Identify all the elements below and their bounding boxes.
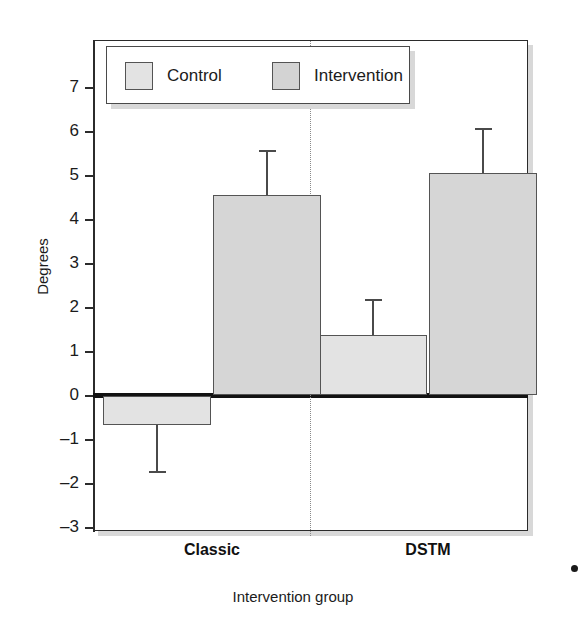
x-axis-title: Intervention group: [0, 588, 586, 605]
bar-dstm-intervention: [429, 173, 537, 395]
legend-item-control: Control: [125, 61, 222, 91]
error-bar-cap: [259, 150, 276, 152]
y-tick-mark: [85, 439, 94, 441]
y-tick-mark: [85, 219, 94, 221]
bar-dstm-control: [319, 335, 427, 396]
y-tick-mark: [85, 263, 94, 265]
y-tick-mark: [85, 527, 94, 529]
y-tick-mark: [85, 307, 94, 309]
error-bar-stem: [266, 151, 268, 195]
legend-box: Control Intervention: [106, 46, 410, 104]
page-bottom-edge: [0, 612, 586, 619]
y-axis-line: [93, 40, 95, 532]
y-tick-mark: [85, 483, 94, 485]
legend-item-intervention: Intervention: [272, 61, 403, 91]
y-tick-label: –3: [45, 518, 79, 535]
y-tick-label: 3: [45, 254, 79, 271]
x-tick-label-classic: Classic: [132, 541, 292, 559]
bar-classic-control: [103, 396, 211, 426]
y-tick-mark: [85, 87, 94, 89]
y-tick-mark: [85, 131, 94, 133]
y-tick-label: 7: [45, 78, 79, 95]
error-bar-cap: [149, 471, 166, 473]
error-bar-cap: [365, 299, 382, 301]
y-tick-label: 1: [45, 342, 79, 359]
error-bar-cap: [475, 128, 492, 130]
error-bar-stem: [372, 300, 374, 335]
y-tick-mark: [85, 351, 94, 353]
x-tick-label-dstm: DSTM: [348, 541, 508, 559]
legend-label-control: Control: [167, 66, 222, 86]
y-tick-label: 0: [45, 386, 79, 403]
y-tick-label: 2: [45, 298, 79, 315]
y-tick-mark: [85, 175, 94, 177]
y-tick-label: 4: [45, 210, 79, 227]
y-tick-label: –1: [45, 430, 79, 447]
legend-swatch-control: [125, 62, 153, 90]
legend-label-intervention: Intervention: [314, 66, 403, 86]
y-tick-label: –2: [45, 474, 79, 491]
bar-classic-intervention: [213, 195, 321, 395]
y-tick-label: 6: [45, 122, 79, 139]
error-bar-stem: [156, 425, 158, 471]
legend-swatch-intervention: [272, 62, 300, 90]
bar-chart-figure: Degrees 76543210–1–2–3 ClassicDSTM Inter…: [0, 0, 586, 619]
y-tick-label: 5: [45, 166, 79, 183]
error-bar-stem: [482, 129, 484, 173]
page-artifact-dot: [571, 565, 578, 572]
